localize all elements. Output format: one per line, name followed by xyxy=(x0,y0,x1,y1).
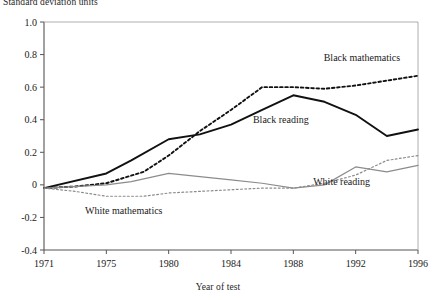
x-tick-label: 1971 xyxy=(34,258,54,269)
x-tick-label: 1996 xyxy=(408,258,428,269)
y-tick-label: 0.2 xyxy=(25,147,38,158)
x-axis-title: Year of test xyxy=(0,282,436,292)
y-tick-label: -0.4 xyxy=(21,245,37,256)
series-label-black-mathematics: Black mathematics xyxy=(324,52,400,63)
series-line-black-mathematics xyxy=(44,76,418,188)
chart-plot-svg: 1.00.80.60.40.20-0.2-0.41971197519801984… xyxy=(0,0,436,300)
y-tick-label: 0.6 xyxy=(25,82,38,93)
series-label-black-reading: Black reading xyxy=(253,114,309,125)
y-tick-label: -0.2 xyxy=(21,212,37,223)
chart-figure: Standard deviation units 1.00.80.60.40.2… xyxy=(0,0,436,300)
series-label-white-reading: White reading xyxy=(313,176,370,187)
series-label-white-mathematics: White mathematics xyxy=(85,205,163,216)
x-tick-label: 1984 xyxy=(221,258,241,269)
x-tick-label: 1992 xyxy=(346,258,366,269)
y-tick-label: 0 xyxy=(32,179,37,190)
x-tick-label: 1988 xyxy=(283,258,303,269)
x-tick-label: 1975 xyxy=(96,258,116,269)
x-tick-label: 1980 xyxy=(159,258,179,269)
y-tick-label: 0.4 xyxy=(25,114,38,125)
y-tick-label: 1.0 xyxy=(25,17,38,28)
y-tick-label: 0.8 xyxy=(25,49,38,60)
